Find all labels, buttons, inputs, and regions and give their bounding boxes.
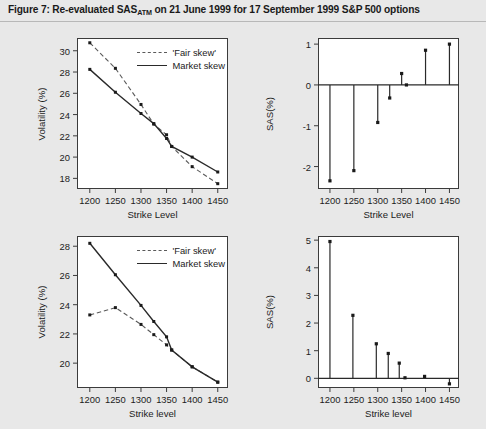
data-point-marker <box>152 333 155 336</box>
data-point-marker <box>139 323 142 326</box>
stem-marker <box>328 240 331 243</box>
legend-key-dashed <box>137 246 167 255</box>
stem-marker <box>376 121 379 124</box>
figure-title-subscript: ATM <box>137 8 152 17</box>
legend-label-fair-skew: 'Fair skew' <box>172 47 216 58</box>
stem-marker <box>448 382 451 385</box>
stem-marker <box>351 314 354 317</box>
stem-marker <box>398 362 401 365</box>
stem-marker <box>405 83 408 86</box>
data-point-marker <box>88 242 91 245</box>
legend-entry-fair-skew: 'Fair skew' <box>137 46 225 59</box>
y-axis-title-top-left: Volatility (%) <box>36 87 47 140</box>
solid-line-swatch <box>137 65 167 66</box>
legend-entry-fair-skew: 'Fair skew' <box>137 244 225 257</box>
data-point-marker <box>114 91 117 94</box>
stem-marker <box>423 375 426 378</box>
plot-graphics-bottom-right <box>256 226 468 426</box>
data-point-marker <box>191 156 194 159</box>
stem-marker <box>375 342 378 345</box>
figure-root: Figure 7: Re-evaluated SASATM on 21 June… <box>0 0 486 429</box>
x-axis-title-bottom-right: Strike level <box>365 408 412 419</box>
stem-marker <box>448 43 451 46</box>
stem-marker <box>328 179 331 182</box>
data-point-marker <box>152 122 155 125</box>
legend-key-dashed <box>137 48 167 57</box>
legend-key-solid <box>137 61 167 70</box>
data-point-marker <box>88 68 91 71</box>
legend-label-fair-skew: 'Fair skew' <box>172 245 216 256</box>
data-point-marker <box>139 304 142 307</box>
legend-label-market-skew: Market skew <box>172 258 225 269</box>
legend-bottom-left: 'Fair skew'Market skew <box>137 244 225 270</box>
y-axis-title-top-right: SAS(%) <box>264 96 275 130</box>
legend-top-left: 'Fair skew'Market skew <box>137 46 225 72</box>
chart-panel-bottom-right: 012345120012501300135014001450SAS(%)Stri… <box>256 226 468 426</box>
stem-marker <box>387 352 390 355</box>
stem-marker <box>403 376 406 379</box>
data-point-marker <box>152 320 155 323</box>
data-point-marker <box>165 133 168 136</box>
legend-label-market-skew: Market skew <box>172 60 225 71</box>
plot-graphics-top-right <box>256 26 468 222</box>
legend-entry-market-skew: Market skew <box>137 257 225 270</box>
figure-title-suffix: on 21 June 1999 for 17 September 1999 S&… <box>152 4 420 15</box>
data-point-marker <box>88 41 91 44</box>
x-axis-title-top-right: Strike Level <box>363 209 413 220</box>
data-point-marker <box>114 306 117 309</box>
data-point-marker <box>139 103 142 106</box>
data-point-marker <box>139 112 142 115</box>
data-point-marker <box>191 165 194 168</box>
x-axis-title-top-left: Strike Level <box>127 209 177 220</box>
data-point-marker <box>170 145 173 148</box>
data-point-marker <box>191 365 194 368</box>
stem-marker <box>400 72 403 75</box>
chart-panel-top-left: 18202224262830120012501300135014001450Vo… <box>28 26 228 222</box>
y-axis-title-bottom-left: Volatility (%) <box>36 286 47 339</box>
stem-marker <box>352 169 355 172</box>
data-point-marker <box>216 170 219 173</box>
data-point-marker <box>165 335 168 338</box>
chart-panel-top-right: -2-101120012501300135014001450SAS(%)Stri… <box>256 26 468 222</box>
data-point-marker <box>114 273 117 276</box>
legend-entry-market-skew: Market skew <box>137 59 225 72</box>
dashed-line-swatch <box>137 250 167 251</box>
legend-key-solid <box>137 259 167 268</box>
stem-marker <box>424 49 427 52</box>
series-line-market-skew <box>90 69 218 172</box>
data-point-marker <box>170 349 173 352</box>
data-point-marker <box>165 343 168 346</box>
dashed-line-swatch <box>137 52 167 53</box>
solid-line-swatch <box>137 263 167 264</box>
x-axis-title-bottom-left: Strike level <box>129 408 176 419</box>
stem-marker <box>388 96 391 99</box>
chart-panel-bottom-left: 2022242628120012501300135014001450Volati… <box>28 226 228 426</box>
data-point-marker <box>114 67 117 70</box>
data-point-marker <box>216 381 219 384</box>
data-point-marker <box>88 313 91 316</box>
data-point-marker <box>216 182 219 185</box>
data-point-marker <box>165 137 168 140</box>
y-axis-title-bottom-right: SAS(%) <box>264 295 275 329</box>
title-divider <box>0 21 486 22</box>
figure-title-prefix: Figure 7: Re-evaluated SAS <box>8 4 137 15</box>
figure-title: Figure 7: Re-evaluated SASATM on 21 June… <box>8 4 478 15</box>
